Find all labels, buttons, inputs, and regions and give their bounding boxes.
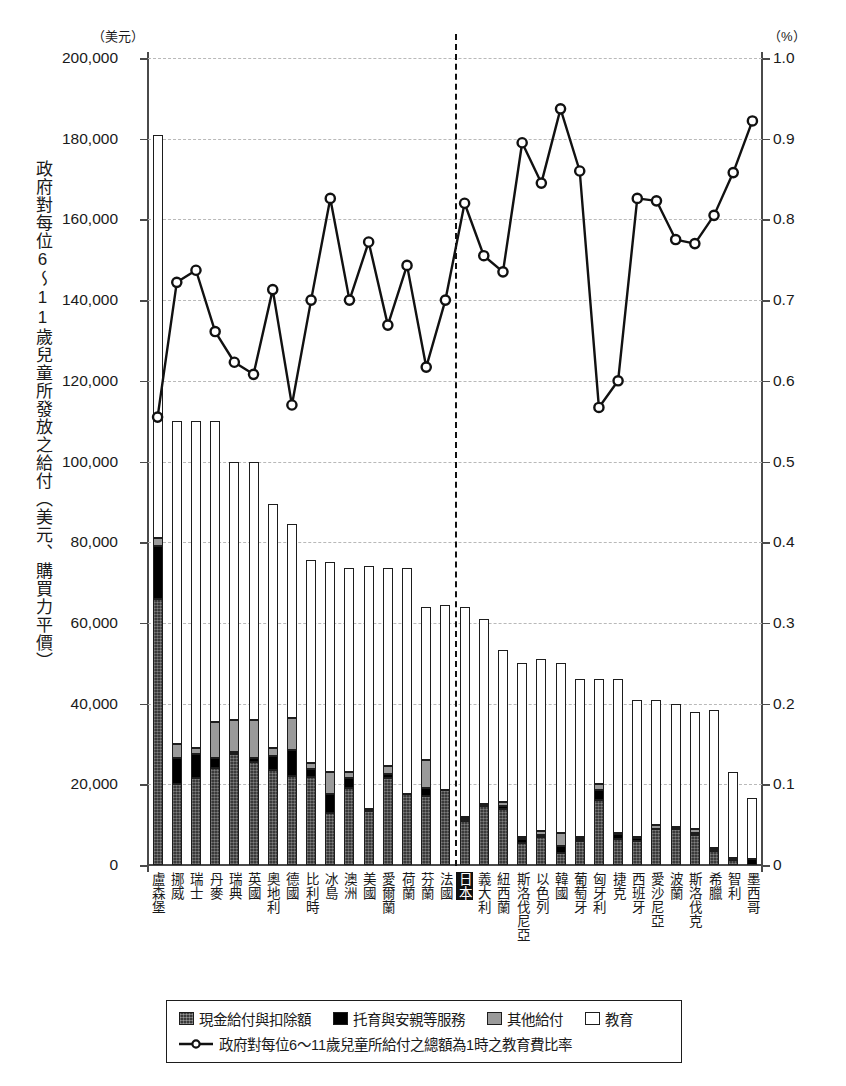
right-tick-label: 0.5	[773, 453, 795, 471]
x-label-text: 葡萄牙	[572, 872, 587, 914]
ratio-point-挪威	[172, 278, 181, 287]
bar-segment-cash	[172, 784, 182, 865]
x-label-法國: 法國	[438, 872, 453, 900]
bar-智利	[728, 772, 738, 865]
bar-葡萄牙	[575, 679, 585, 865]
bar-segment-other	[517, 837, 527, 839]
bar-segment-education	[556, 663, 566, 832]
legend-swatch-childcare	[333, 1012, 348, 1025]
bar-捷克	[613, 679, 623, 865]
ratio-point-荷蘭	[402, 261, 411, 270]
bar-segment-other	[287, 718, 297, 750]
bar-segment-other	[191, 748, 201, 754]
bar-segment-other	[575, 837, 585, 839]
bar-segment-childcare	[306, 769, 316, 777]
ratio-point-瑞士	[191, 266, 200, 275]
right-tick	[762, 462, 770, 464]
x-label-text: 韓國	[553, 872, 568, 900]
bar-segment-cash	[344, 788, 354, 865]
right-tick	[762, 623, 770, 625]
x-label-瑞士: 瑞士	[188, 872, 203, 900]
left-tick-label: 80,000	[71, 533, 118, 551]
bar-segment-other	[229, 720, 239, 752]
bar-segment-education	[268, 504, 278, 748]
left-tick-label: 180,000	[62, 130, 118, 148]
bar-segment-education	[191, 421, 201, 748]
left-tick	[140, 704, 148, 706]
bar-segment-cash	[517, 843, 527, 865]
left-tick-label: 100,000	[62, 453, 118, 471]
ratio-point-紐西蘭	[498, 267, 507, 276]
left-tick	[140, 58, 148, 60]
bar-愛沙尼亞	[651, 700, 661, 865]
x-label-text: 冰島	[323, 872, 338, 900]
right-tick-label: 0	[773, 856, 782, 874]
ratio-point-愛爾蘭	[383, 321, 392, 330]
x-label-text: 以色列	[534, 872, 549, 914]
x-label-text: 法國	[438, 872, 453, 900]
legend-label-cash: 現金給付與扣除額	[199, 1008, 311, 1029]
bar-segment-childcare	[690, 833, 700, 835]
bar-segment-other	[536, 831, 546, 835]
bar-美國	[364, 566, 374, 865]
bar-segment-cash	[325, 813, 335, 865]
right-axis-unit: （%）	[768, 26, 806, 45]
ratio-point-盧森堡	[153, 413, 162, 422]
bar-segment-education	[690, 712, 700, 829]
ratio-point-義大利	[479, 251, 488, 260]
ratio-point-奧地利	[268, 285, 277, 294]
left-tick-label: 200,000	[62, 49, 118, 67]
bar-segment-education	[249, 462, 259, 720]
bar-segment-cash	[498, 809, 508, 865]
bar-segment-education	[287, 524, 297, 718]
legend-swatch-other	[487, 1012, 502, 1025]
bar-segment-childcare	[153, 546, 163, 598]
right-tick-label: 0.3	[773, 614, 795, 632]
bar-冰島	[325, 562, 335, 865]
x-label-荷蘭: 荷蘭	[400, 872, 415, 900]
bar-澳洲	[344, 568, 354, 865]
ratio-point-葡萄牙	[575, 166, 584, 175]
ratio-point-冰島	[326, 194, 335, 203]
right-tick	[762, 704, 770, 706]
bar-segment-childcare	[709, 849, 719, 851]
x-label-text: 智利	[726, 872, 741, 900]
bar-segment-education	[364, 566, 374, 808]
right-tick	[762, 381, 770, 383]
ratio-point-波蘭	[671, 235, 680, 244]
legend-label-childcare: 托育與安親等服務	[353, 1008, 465, 1029]
bar-segment-childcare	[460, 819, 470, 821]
x-label-紐西蘭: 紐西蘭	[495, 872, 510, 914]
ratio-point-西班牙	[633, 194, 642, 203]
bar-segment-cash	[632, 841, 642, 865]
x-label-text: 比利時	[304, 872, 319, 914]
x-label-波蘭: 波蘭	[668, 872, 683, 900]
bar-segment-other	[306, 763, 316, 769]
bar-segment-other	[498, 802, 508, 806]
bar-segment-childcare	[229, 752, 239, 754]
bar-segment-education	[210, 421, 220, 722]
bar-segment-education	[613, 679, 623, 832]
x-label-西班牙: 西班牙	[630, 872, 645, 914]
right-tick	[762, 300, 770, 302]
bar-segment-cash	[249, 762, 259, 865]
legend-label-other: 其他給付	[507, 1008, 563, 1029]
x-label-美國: 美國	[361, 872, 376, 900]
x-label-比利時: 比利時	[304, 872, 319, 914]
left-tick	[140, 300, 148, 302]
left-tick-label: 120,000	[62, 372, 118, 390]
bar-segment-cash	[287, 776, 297, 865]
bar-segment-education	[306, 560, 316, 763]
bar-segment-childcare	[172, 758, 182, 784]
x-label-text: 波蘭	[668, 872, 683, 900]
bar-segment-education	[153, 135, 163, 539]
bar-segment-childcare	[498, 806, 508, 809]
right-tick-label: 0.2	[773, 695, 795, 713]
bar-segment-cash	[651, 829, 661, 865]
bar-segment-education	[440, 605, 450, 791]
bar-匈牙利	[594, 679, 604, 865]
bar-segment-education	[479, 619, 489, 804]
bar-segment-cash	[402, 794, 412, 865]
x-label-奧地利: 奧地利	[265, 872, 280, 914]
bar-segment-other	[479, 804, 489, 807]
